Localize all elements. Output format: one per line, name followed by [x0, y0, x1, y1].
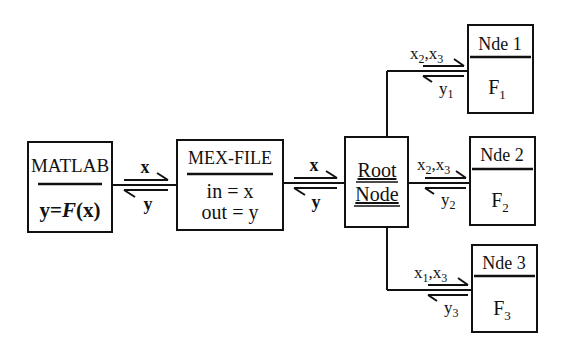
root-line1: Root [358, 159, 397, 181]
back-arrow-head-icon [294, 188, 305, 195]
forward-arrow-head-icon [454, 59, 464, 66]
matlab-title: MATLAB [31, 155, 109, 176]
link2-forward-label: x [310, 155, 319, 175]
formula-y: y [40, 198, 51, 222]
root-line2: Node [355, 183, 398, 205]
node-1-inputs: x2,x3 [410, 44, 443, 66]
node-1-title: Nde 1 [478, 34, 522, 54]
back-arrow-head-icon [124, 190, 135, 197]
matlab-formula: y=F(x) [40, 198, 101, 222]
forward-arrow-head-icon [458, 278, 468, 285]
node-1-output: y1 [439, 79, 454, 101]
formula-x: (x) [76, 198, 101, 222]
node-3-inputs: x1,x3 [414, 263, 447, 285]
formula-F: F [61, 198, 76, 222]
node-2-inputs: x2,x3 [417, 155, 450, 177]
node-3-title: Nde 3 [482, 253, 526, 273]
formula-eq: = [50, 198, 62, 222]
link1-forward-label: x [141, 157, 150, 177]
node-1-func: F1 [488, 76, 506, 102]
mex-line-in: in = x [207, 180, 254, 202]
mex-title: MEX-FILE [188, 148, 272, 168]
mex-line-out: out = y [202, 201, 259, 224]
link2-back-label: y [312, 192, 321, 212]
node-3-func: F3 [493, 297, 511, 323]
forward-arrow-head-icon [456, 171, 466, 178]
diagram-canvas: MATLAB y=F(x) MEX-FILE in = x out = y Ro… [0, 0, 563, 347]
node-3-output: y3 [444, 298, 459, 320]
forward-arrow-head-icon [326, 171, 337, 178]
link1-back-label: y [144, 194, 153, 214]
node-2-title: Nde 2 [480, 145, 524, 165]
node-2-func: F2 [491, 189, 509, 215]
forward-arrow-head-icon [157, 173, 168, 180]
node-2-output: y2 [441, 190, 456, 212]
